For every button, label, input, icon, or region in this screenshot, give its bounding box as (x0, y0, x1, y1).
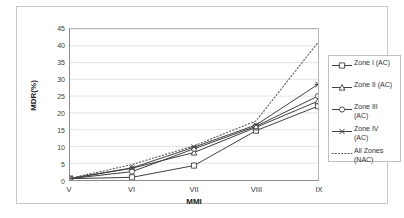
x-axis-tick-label: IX (315, 185, 322, 194)
plot-area (69, 28, 319, 181)
x-axis-tick-label: VII (189, 185, 198, 194)
legend-marker-icon (331, 60, 353, 71)
chart-legend: Zone I (AC)Zone II (AC)Zone III (AC)Zone… (328, 55, 401, 162)
y-axis-tick-label: 15 (47, 127, 65, 134)
legend-marker-icon (331, 148, 353, 159)
legend-item[interactable]: Zone II (AC) (331, 81, 398, 101)
data-point-marker (129, 175, 134, 180)
x-axis-tick-label: VIII (251, 185, 262, 194)
legend-marker-icon (331, 126, 353, 137)
chart-frame: MDR(%) 454035302520151050 VVIVIIVIIIIX M… (16, 6, 388, 204)
y-axis-tick-label: 35 (47, 59, 65, 66)
legend-item[interactable]: Zone I (AC) (331, 59, 398, 79)
data-point-marker (191, 163, 196, 168)
x-axis-tick-label: VI (128, 185, 135, 194)
data-point-marker (315, 94, 318, 99)
y-axis-tick-label: 20 (47, 110, 65, 117)
legend-item-label: Zone IV (AC) (353, 125, 379, 142)
y-axis-tick-label: 25 (47, 93, 65, 100)
y-axis-tick-label: 0 (47, 178, 65, 185)
legend-marker-icon (331, 104, 353, 115)
plot-series-svg (70, 29, 318, 180)
data-point-marker (339, 129, 346, 134)
legend-item-label: Zone I (AC) (353, 59, 390, 68)
x-axis-title: MMI (69, 197, 319, 206)
legend-item[interactable]: All Zones (NAC) (331, 147, 398, 167)
legend-item[interactable]: Zone IV (AC) (331, 125, 398, 145)
legend-marker-icon (331, 82, 353, 93)
y-axis-tick-label: 40 (47, 42, 65, 49)
data-point-marker (339, 107, 344, 112)
x-axis-tick-label: V (66, 185, 71, 194)
y-axis-tick-label: 45 (47, 25, 65, 32)
legend-item-label: Zone II (AC) (353, 81, 392, 90)
y-axis-tick-labels: 454035302520151050 (45, 28, 65, 181)
legend-item-label: Zone III (AC) (353, 103, 378, 120)
data-point-marker (315, 104, 318, 109)
y-axis-tick-label: 10 (47, 144, 65, 151)
legend-item[interactable]: Zone III (AC) (331, 103, 398, 123)
legend-item-label: All Zones (NAC) (353, 147, 383, 164)
y-axis-title: MDR(%) (29, 66, 38, 126)
y-axis-tick-label: 30 (47, 76, 65, 83)
chart-container: MDR(%) 454035302520151050 VVIVIIVIIIIX M… (0, 0, 404, 218)
x-axis-tick-labels: VVIVIIVIIIIX (69, 185, 319, 197)
data-point-marker (339, 63, 344, 68)
y-axis-tick-label: 5 (47, 161, 65, 168)
